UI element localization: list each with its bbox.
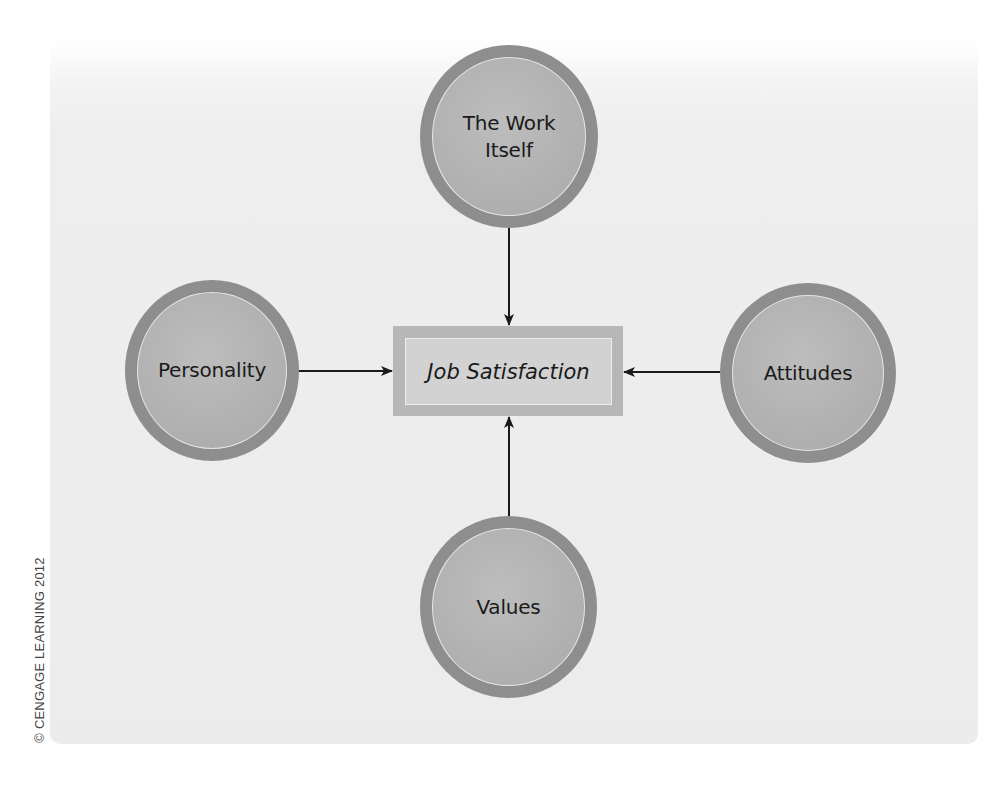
node-personality-label: Personality <box>158 357 266 384</box>
node-work-itself-label: The Work Itself <box>463 110 556 164</box>
node-values-inner: Values <box>432 528 585 686</box>
job-satisfaction-label: Job Satisfaction <box>427 360 589 384</box>
node-work-itself-inner: The Work Itself <box>432 57 586 216</box>
copyright-notice: © CENGAGE LEARNING 2012 <box>32 557 47 742</box>
node-work-itself-label-line1: The Work <box>463 110 556 137</box>
node-attitudes: Attitudes <box>720 283 896 463</box>
node-attitudes-inner: Attitudes <box>732 295 884 451</box>
node-values: Values <box>420 516 597 698</box>
node-personality: Personality <box>125 280 299 461</box>
node-work-itself-label-line2: Itself <box>463 137 556 164</box>
node-attitudes-label: Attitudes <box>764 360 853 387</box>
node-values-label: Values <box>476 594 540 621</box>
job-satisfaction-inner: Job Satisfaction <box>405 338 612 405</box>
job-satisfaction-box: Job Satisfaction <box>393 326 623 416</box>
node-personality-inner: Personality <box>137 292 287 449</box>
node-work-itself: The Work Itself <box>420 45 598 228</box>
